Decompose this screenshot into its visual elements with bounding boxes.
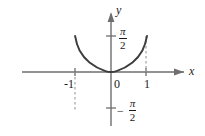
origin-label: 0 xyxy=(114,78,120,90)
x-axis-label: x xyxy=(189,65,194,77)
graph-canvas xyxy=(0,0,205,136)
fraction-denominator: 2 xyxy=(129,112,137,124)
fraction-pi-over-2-negative: π 2 xyxy=(129,98,137,123)
y-tick-label-negative-pi-over-2: − π 2 xyxy=(117,98,136,123)
negative-sign: − xyxy=(117,105,125,117)
y-axis xyxy=(108,12,115,126)
fraction-numerator: π xyxy=(119,26,127,38)
x-tick-label-one: 1 xyxy=(144,78,150,90)
fraction-pi-over-2: π 2 xyxy=(119,26,127,51)
arcsine-function-figure: y x π 2 − π 2 -1 0 1 xyxy=(0,0,205,136)
y-tick-label-pi-over-2: π 2 xyxy=(119,26,127,51)
fraction-numerator: π xyxy=(129,98,137,110)
fraction-denominator: 2 xyxy=(119,40,127,52)
y-axis-label: y xyxy=(116,4,121,16)
x-tick-label-negative-one: -1 xyxy=(64,78,74,90)
